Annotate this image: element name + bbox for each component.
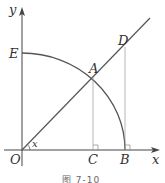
- point-E-label: E: [9, 47, 19, 60]
- unit-circle-diagram: [0, 0, 165, 183]
- angle-label: x: [32, 139, 38, 149]
- x-axis-label: x: [152, 153, 159, 166]
- point-D-label: D: [118, 34, 128, 47]
- y-axis-label: y: [9, 3, 16, 16]
- right-angle-C-icon: [93, 145, 98, 150]
- figure-caption: 图 7-10: [62, 173, 100, 183]
- right-angle-B-icon: [125, 145, 130, 150]
- origin-label: O: [10, 153, 21, 166]
- terminal-ray: [22, 18, 150, 150]
- angle-arc-icon: [28, 145, 31, 151]
- unit-circle-arc: [22, 53, 125, 150]
- point-A-label: A: [89, 62, 98, 75]
- diagram: y x O E A D C B x 图 7-10: [0, 0, 165, 183]
- point-B-label: B: [120, 153, 130, 166]
- point-C-label: C: [88, 153, 98, 166]
